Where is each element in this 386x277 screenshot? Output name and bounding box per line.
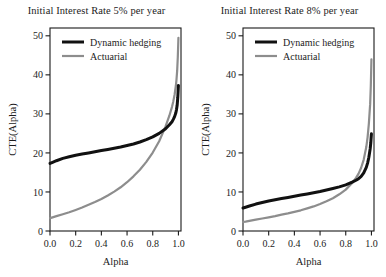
legend-label-dynamic-hedging: Dynamic hedging <box>283 37 354 48</box>
legend-label-actuarial: Actuarial <box>283 51 320 62</box>
y-tick-label: 40 <box>226 69 236 80</box>
x-tick-label: 0.6 <box>314 238 327 249</box>
x-tick-label: 0.4 <box>288 238 301 249</box>
series-line-actuarial <box>50 38 178 218</box>
x-tick-label: 0.0 <box>44 238 57 249</box>
y-tick-label: 50 <box>226 30 236 41</box>
y-tick-label: 50 <box>33 30 43 41</box>
y-tick-label: 20 <box>33 148 43 159</box>
x-tick-label: 0.8 <box>339 238 352 249</box>
x-axis-title: Alpha <box>103 256 129 267</box>
series-line-dynamic-hedging <box>243 134 371 208</box>
figure-container: Initial Interest Rate 5% per year 010203… <box>0 0 386 277</box>
plot-area-left: 010203040500.00.20.40.60.81.0AlphaCTE(Al… <box>0 0 193 277</box>
series-line-dynamic-hedging <box>50 85 178 163</box>
x-tick-label: 0.2 <box>69 238 82 249</box>
y-tick-label: 40 <box>33 69 43 80</box>
legend-label-actuarial: Actuarial <box>90 51 127 62</box>
plot-area-right: 010203040500.00.20.40.60.81.0AlphaCTE(Al… <box>193 0 386 277</box>
y-tick-label: 0 <box>38 226 43 237</box>
x-tick-label: 0.6 <box>121 238 134 249</box>
x-tick-label: 1.0 <box>172 238 185 249</box>
y-axis-title: CTE(Alpha) <box>7 103 19 156</box>
y-axis-title: CTE(Alpha) <box>200 103 212 156</box>
chart-panel-left: Initial Interest Rate 5% per year 010203… <box>0 0 193 277</box>
y-tick-label: 30 <box>33 108 43 119</box>
y-tick-label: 10 <box>33 187 43 198</box>
x-tick-label: 0.4 <box>95 238 108 249</box>
legend-label-dynamic-hedging: Dynamic hedging <box>90 37 161 48</box>
y-tick-label: 10 <box>226 187 236 198</box>
y-tick-label: 20 <box>226 148 236 159</box>
chart-panel-right: Initial Interest Rate 8% per year 010203… <box>193 0 386 277</box>
y-tick-label: 0 <box>231 226 236 237</box>
x-tick-label: 0.8 <box>146 238 159 249</box>
x-axis-title: Alpha <box>296 256 322 267</box>
x-tick-label: 0.0 <box>237 238 250 249</box>
series-line-actuarial <box>243 59 371 222</box>
x-tick-label: 0.2 <box>262 238 275 249</box>
y-tick-label: 30 <box>226 108 236 119</box>
x-tick-label: 1.0 <box>365 238 378 249</box>
